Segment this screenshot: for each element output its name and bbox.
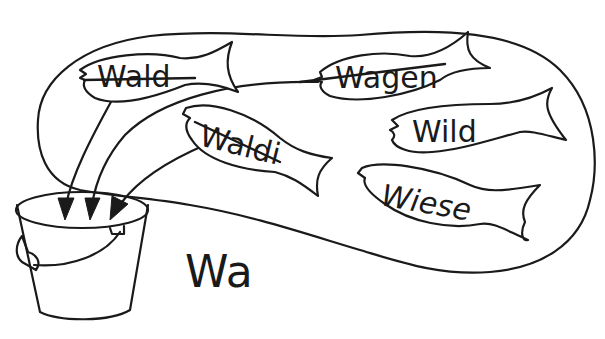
bucket [16,192,148,319]
fish-wald: Wald [80,42,238,102]
arrow-head-icon [110,196,128,220]
arrow-head-icon [85,198,100,220]
fish-word: Wald [97,59,171,94]
worksheet-illustration: Wald Wagen Waldi Wild Wiese Wa [0,0,605,339]
bucket-handle [34,232,120,265]
bucket-rim [16,192,148,228]
fish-wagen: Wagen [300,32,490,99]
bucket-handle-clip-right [110,226,124,234]
arrow-waldi-to-bucket [122,145,205,202]
arrow-wald-to-bucket [66,100,112,205]
fish-wiese: Wiese [358,165,540,241]
fish-waldi: Waldi [183,106,332,196]
arrow-head-icon [58,198,74,220]
fish-word: Wild [412,114,477,149]
bucket-label: Wa [185,246,253,297]
fish-word: Wagen [335,60,438,95]
fish-wild: Wild [390,88,566,152]
